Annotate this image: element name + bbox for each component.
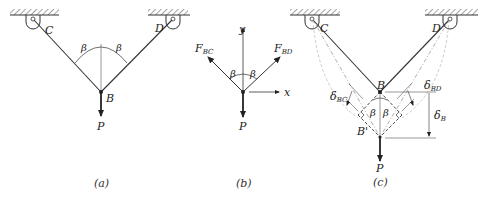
delta-bc-ext-2 bbox=[346, 99, 358, 111]
label-d: D bbox=[154, 22, 164, 35]
angle-arc-left bbox=[373, 98, 380, 100]
caption-a: (a) bbox=[94, 177, 109, 190]
delta-bc-ext-1 bbox=[349, 84, 363, 99]
label-c: C bbox=[320, 22, 329, 35]
label-x: x bbox=[284, 86, 291, 99]
angle-arc-left bbox=[75, 47, 101, 63]
label-beta-right: β bbox=[249, 68, 256, 79]
delta-bd-dimension bbox=[408, 91, 413, 105]
truss-figure: C D B P β β (a) FBC FBD y x P β β (b) bbox=[0, 0, 487, 205]
label-p: P bbox=[238, 120, 247, 133]
panel-b: FBC FBD y x P β β (b) bbox=[194, 23, 293, 190]
label-beta-right: β bbox=[382, 107, 389, 118]
label-b: B bbox=[376, 79, 385, 92]
construction-line-left bbox=[358, 92, 380, 115]
panel-c: C D B B' P β β δBC δBD δB (c) bbox=[290, 9, 478, 189]
label-c: C bbox=[45, 24, 54, 37]
label-d: D bbox=[431, 22, 441, 35]
caption-b: (b) bbox=[236, 177, 252, 190]
label-p: P bbox=[375, 162, 384, 175]
label-delta-bd: δBD bbox=[424, 79, 442, 93]
swing-arc-right bbox=[402, 20, 449, 118]
delta-bd-ext-2 bbox=[402, 99, 414, 111]
delta-bd-ext-1 bbox=[397, 84, 411, 99]
panel-a: C D B P β β (a) bbox=[10, 9, 190, 190]
angle-arc-right bbox=[101, 47, 127, 63]
label-beta-left: β bbox=[80, 42, 87, 53]
right-angle-left bbox=[361, 112, 364, 118]
caption-c: (c) bbox=[373, 176, 388, 189]
support-c bbox=[290, 9, 340, 29]
label-f-bd: FBD bbox=[273, 42, 293, 56]
right-angle-right bbox=[396, 112, 399, 118]
label-delta-b: δB bbox=[434, 109, 446, 123]
deformed-bar-bc bbox=[313, 20, 380, 137]
label-beta-left: β bbox=[369, 107, 376, 118]
label-b-prime: B' bbox=[356, 125, 368, 138]
label-delta-bc: δBC bbox=[330, 90, 348, 104]
joint-b bbox=[241, 90, 245, 94]
label-b: B bbox=[105, 92, 114, 105]
delta-bc-dimension bbox=[347, 91, 352, 105]
label-f-bc: FBC bbox=[194, 42, 214, 56]
label-beta-left: β bbox=[229, 68, 236, 79]
label-p: P bbox=[96, 120, 105, 133]
label-y: y bbox=[238, 23, 246, 36]
angle-arc-right bbox=[380, 98, 387, 100]
label-beta-right: β bbox=[115, 42, 122, 53]
